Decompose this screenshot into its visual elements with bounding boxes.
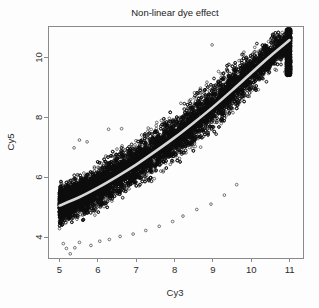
scatter-plot: Non-linear dye effect 567891011 46810 Cy… — [0, 0, 319, 308]
x-tick-label: 10 — [246, 264, 257, 275]
y-tick-label: 8 — [34, 115, 45, 120]
y-tick-label: 10 — [34, 52, 45, 63]
y-axis-label: Cy5 — [5, 134, 16, 151]
x-tick-label: 9 — [210, 264, 215, 275]
y-tick-label: 6 — [34, 175, 45, 180]
y-tick-label: 4 — [34, 234, 45, 239]
x-tick-label: 11 — [285, 264, 295, 275]
chart-title: Non-linear dye effect — [131, 7, 219, 18]
x-axis-label: Cy3 — [167, 287, 184, 298]
figure-container: Non-linear dye effect 567891011 46810 Cy… — [0, 0, 319, 308]
x-tick-label: 6 — [95, 264, 100, 275]
x-tick-label: 5 — [57, 264, 62, 275]
x-tick-label: 8 — [172, 264, 177, 275]
x-tick-label: 7 — [134, 264, 139, 275]
